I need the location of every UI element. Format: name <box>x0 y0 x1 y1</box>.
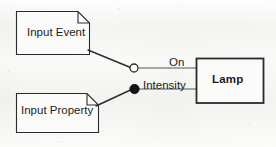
component-lamp-label: Lamp <box>212 74 243 86</box>
note-input-property-label: Input Property <box>21 105 93 117</box>
connector-event-to-on <box>88 50 131 68</box>
diagram-canvas: Input Event Input Property On Intensity … <box>0 0 276 147</box>
port-on-hollow-circle-icon[interactable] <box>130 64 138 72</box>
port-intensity-label: Intensity <box>143 80 186 92</box>
port-intensity-filled-circle-icon[interactable] <box>130 84 139 93</box>
port-on-label: On <box>169 57 184 69</box>
note-input-event-label: Input Event <box>27 27 85 39</box>
connector-property-to-intensity <box>96 90 131 106</box>
